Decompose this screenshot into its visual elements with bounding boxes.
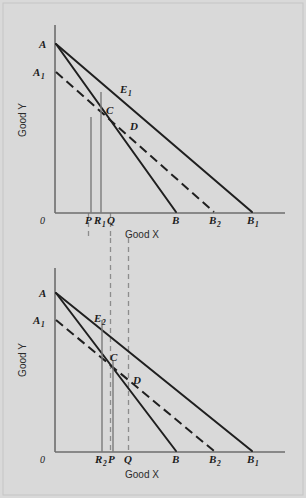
bottom-label-B1-subscript: 1 (255, 459, 259, 468)
bottom-label-C: C (110, 351, 118, 363)
top-label-D: D (129, 120, 138, 132)
top-label-origin: 0 (40, 215, 45, 226)
bottom-label-R2: R (94, 453, 102, 465)
top-label-B2-subscript: 2 (216, 220, 221, 229)
bottom-label-E2: E (93, 312, 101, 324)
bottom-label-A: A (38, 287, 46, 299)
bottom-label-E2-subscript: 2 (101, 318, 106, 327)
bottom-label-R2-subscript: 2 (102, 459, 107, 468)
bottom-label-P: P (108, 453, 115, 465)
top-label-E1: E (119, 83, 127, 95)
bottom-label-B2: B (208, 453, 216, 465)
bottom-label-Q: Q (124, 453, 132, 465)
top-label-B2: B (208, 214, 216, 226)
bottom-label-A1-subscript: 1 (41, 320, 45, 329)
bottom-x-axis-title: Good X (125, 469, 159, 480)
top-label-B1: B (246, 214, 254, 226)
top-label-A1: A (32, 66, 40, 78)
top-label-P: P (85, 214, 92, 226)
bottom-y-axis-title: Good Y (17, 343, 28, 377)
top-label-A1-subscript: 1 (41, 72, 45, 81)
top-label-B1-subscript: 1 (255, 220, 259, 229)
top-y-axis-title: Good Y (17, 103, 28, 137)
top-label-B: B (171, 214, 179, 226)
bottom-label-B: B (171, 453, 179, 465)
top-label-E1-subscript: 1 (128, 89, 132, 98)
diagram-canvas: A A 1 E 1 C D 0 P R 1 Q B B 2 B 1 Good X… (0, 0, 306, 498)
bottom-label-origin: 0 (40, 454, 45, 465)
figure-container: A A 1 E 1 C D 0 P R 1 Q B B 2 B 1 Good X… (0, 0, 306, 498)
top-label-R1-subscript: 1 (102, 220, 106, 229)
figure-background (0, 0, 306, 498)
top-label-C: C (106, 104, 114, 116)
top-label-Q: Q (107, 214, 115, 226)
bottom-label-B1: B (246, 453, 254, 465)
bottom-label-D: D (132, 374, 141, 386)
bottom-label-B2-subscript: 2 (216, 459, 221, 468)
top-label-R1: R (93, 214, 101, 226)
top-label-A: A (38, 38, 46, 50)
top-x-axis-title: Good X (125, 229, 159, 240)
bottom-label-A1: A (32, 314, 40, 326)
